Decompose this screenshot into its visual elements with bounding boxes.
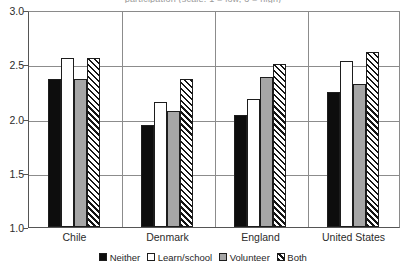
bar <box>247 99 260 227</box>
legend-swatch-icon <box>99 253 107 261</box>
legend-label: Volunteer <box>230 252 270 263</box>
bar <box>61 58 74 227</box>
legend-item-volunteer[interactable]: Volunteer <box>219 252 270 263</box>
y-axis-tick-label: 2.0 <box>0 114 24 126</box>
legend-label: Both <box>287 252 307 263</box>
bar <box>327 92 340 227</box>
bar <box>273 64 286 227</box>
x-axis-label-england: England <box>241 231 280 243</box>
legend-label: Learn/school <box>158 252 212 263</box>
x-axis-label-denmark: Denmark <box>146 231 189 243</box>
bar <box>87 58 100 227</box>
chart-legend: NeitherLearn/schoolVolunteerBoth <box>0 250 406 264</box>
bar <box>167 111 180 227</box>
plot-area <box>28 11 400 228</box>
bar <box>260 77 273 227</box>
bar <box>234 115 247 227</box>
legend-swatch-icon <box>219 253 227 261</box>
x-axis-category-labels: ChileDenmarkEnglandUnited States <box>28 231 400 247</box>
bar <box>353 84 366 227</box>
bar <box>74 79 87 227</box>
y-axis-tick-label: 3.0 <box>0 5 24 17</box>
legend-item-neither[interactable]: Neither <box>99 252 140 263</box>
legend-item-both[interactable]: Both <box>277 252 307 263</box>
y-axis-tick-label: 1.5 <box>0 168 24 180</box>
bar-chart-figure: participation (scale: 1 = low, 3 = high)… <box>0 0 406 266</box>
legend-item-learn-school[interactable]: Learn/school <box>147 252 212 263</box>
legend-swatch-icon <box>277 253 285 261</box>
bar-series-container <box>29 12 399 227</box>
bar <box>48 79 61 227</box>
y-axis-tick-mark <box>23 228 28 229</box>
legend-label: Neither <box>110 252 141 263</box>
bar <box>340 61 353 227</box>
clipped-chart-title: participation (scale: 1 = low, 3 = high) <box>0 0 406 3</box>
x-axis-label-chile: Chile <box>63 231 87 243</box>
bar <box>180 79 193 227</box>
bar <box>366 52 379 227</box>
legend-swatch-icon <box>147 253 155 261</box>
bar <box>154 102 167 227</box>
y-axis-tick-label: 2.5 <box>0 59 24 71</box>
x-axis-label-united-states: United States <box>322 231 385 243</box>
bar <box>141 125 154 227</box>
y-axis-tick-label: 1.0 <box>0 222 24 234</box>
